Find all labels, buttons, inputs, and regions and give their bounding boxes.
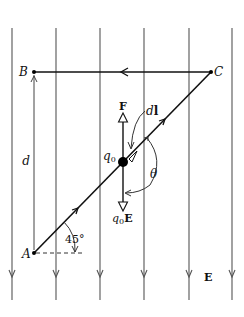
distance-label: d <box>22 154 30 168</box>
field-line <box>97 28 103 300</box>
point-c-label: C <box>214 65 223 79</box>
field-force-vector-q0e <box>119 162 128 211</box>
point-b-label: B <box>18 65 28 79</box>
distance-d-line <box>31 75 37 250</box>
field-label: E <box>204 271 212 284</box>
angle-label: θ <box>150 167 158 181</box>
field-line <box>186 28 192 300</box>
field-line <box>9 28 15 300</box>
point-a <box>32 251 36 255</box>
field-line <box>141 28 147 300</box>
path-c-to-b <box>34 68 211 76</box>
field-force-label: q0E <box>112 212 133 226</box>
charge-label: q0 <box>103 149 116 164</box>
field-line <box>53 28 59 300</box>
force-label: F <box>119 100 127 113</box>
force-vector-f <box>119 113 128 162</box>
test-charge <box>118 157 128 167</box>
dl-pointer <box>128 111 145 149</box>
point-c <box>209 70 213 74</box>
diagram-canvas: d 45° F q0E dl θ q0 A <box>0 0 244 317</box>
field-line <box>229 28 235 300</box>
point-a-label: A <box>21 247 31 261</box>
point-b <box>32 70 36 74</box>
displacement-label: dl <box>146 104 159 118</box>
incline-angle-label: 45° <box>65 233 85 246</box>
